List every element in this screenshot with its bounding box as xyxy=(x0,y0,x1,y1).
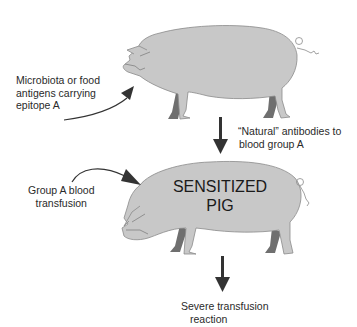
diagram-graphics xyxy=(0,0,357,327)
down-arrow-reaction xyxy=(215,256,230,292)
outcome-label: Severe transfusion reaction xyxy=(181,300,269,325)
antigen-source-label: Microbiota or food antigens carrying epi… xyxy=(16,74,100,112)
transfusion-label: Group A blood transfusion xyxy=(28,184,95,209)
natural-antibodies-label: “Natural” antibodies to blood group A xyxy=(238,125,341,150)
down-arrow-antibodies xyxy=(213,117,228,154)
pig-top-illustration xyxy=(123,26,319,119)
sensitized-pig-title: SENSITIZED PIG xyxy=(170,177,270,215)
sensitization-diagram: Microbiota or food antigens carrying epi… xyxy=(0,0,357,327)
curved-arrow-transfusion xyxy=(72,169,141,185)
